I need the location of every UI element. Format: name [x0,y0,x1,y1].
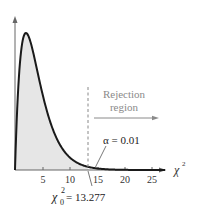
alpha-leader-line [95,146,106,168]
tick-label-15: 15 [93,174,103,185]
chi-square-chart: 5 10 15 20 25 χ 2 Rejection region α = 0… [0,0,198,211]
critical-label-sub: 0 [60,198,64,207]
tick-label-25: 25 [147,174,157,185]
y-axis-arrow-icon [13,16,18,23]
x-axis-label: χ [173,163,180,177]
rejection-label-line1: Rejection [103,88,146,100]
critical-label-sup: 2 [61,186,65,195]
tick-label-10: 10 [65,174,75,185]
tick-label-5: 5 [41,174,46,185]
x-axis-label-sup: 2 [182,160,186,168]
critical-label-value: = 13.277 [66,191,106,203]
alpha-label: α = 0.01 [103,134,140,146]
critical-label-chi: χ [51,190,58,204]
rejection-label-line2: region [110,101,139,113]
non-rejection-area [15,33,88,170]
critical-leader-line [88,171,92,186]
rejection-arrow-icon [152,116,159,120]
tick-label-20: 20 [120,174,130,185]
